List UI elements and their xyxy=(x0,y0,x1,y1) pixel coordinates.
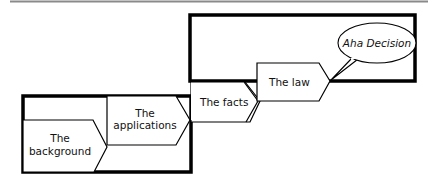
node-applications: The applications xyxy=(107,96,190,145)
node-facts: The facts xyxy=(191,82,260,122)
node-law: The law xyxy=(257,63,330,101)
background-label-1: The xyxy=(49,132,70,144)
diagram-canvas: The background The applications The fact… xyxy=(0,0,441,183)
applications-label-2: applications xyxy=(113,119,176,131)
background-label-2: background xyxy=(29,145,91,157)
law-label: The law xyxy=(268,76,310,88)
node-background: The background xyxy=(23,120,107,172)
decision-label: Aha Decision xyxy=(342,37,411,49)
applications-label-1: The xyxy=(134,107,155,119)
facts-label: The facts xyxy=(199,96,248,108)
node-decision-bubble: Aha Decision xyxy=(331,23,416,80)
